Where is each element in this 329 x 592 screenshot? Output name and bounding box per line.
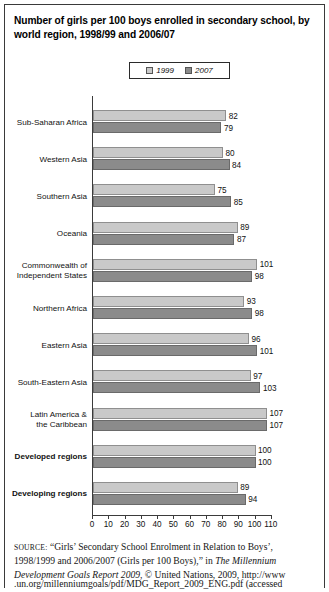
bar-group: Sub-Saharan Africa8279 — [0, 104, 329, 141]
category-label-line: Commonwealth of — [0, 261, 87, 271]
category-label-line: Northern Africa — [0, 304, 87, 314]
category-label-line: South-Eastern Asia — [0, 378, 87, 388]
bar-group: Developing regions8994 — [0, 476, 329, 513]
category-label-line: Developed regions — [0, 452, 87, 462]
bar-2007 — [93, 122, 221, 133]
bar-2007 — [93, 308, 252, 319]
bar-group: Commonwealth ofIndependent States10198 — [0, 253, 329, 290]
bar-2007 — [93, 271, 252, 282]
x-tick-label: 80 — [217, 520, 226, 529]
x-tick-label: 30 — [136, 520, 145, 529]
bar-1999 — [93, 370, 251, 381]
bar-value-label: 87 — [234, 235, 246, 244]
bar-value-label: 101 — [257, 260, 273, 269]
bar-value-label: 79 — [221, 123, 233, 132]
chart-figure: Number of girls per 100 boys enrolled in… — [0, 0, 329, 592]
x-tick-mark — [222, 515, 223, 519]
bar-value-label: 100 — [256, 458, 272, 467]
x-tick-label: 40 — [152, 520, 161, 529]
bar-1999 — [93, 445, 256, 456]
x-tick-mark — [92, 515, 93, 519]
bar-2007 — [93, 457, 256, 468]
bar-group: Latin America &the Caribbean107107 — [0, 402, 329, 439]
bar-2007 — [93, 234, 234, 245]
bar-1999 — [93, 482, 238, 493]
x-tick-mark — [206, 515, 207, 519]
category-label-line: Southern Asia — [0, 192, 87, 202]
bar-1999 — [93, 259, 257, 270]
category-label: Western Asia — [0, 155, 87, 165]
x-tick-label: 20 — [120, 520, 129, 529]
bar-value-label: 84 — [230, 160, 242, 169]
bar-2007 — [93, 494, 246, 505]
bar-value-label: 89 — [238, 483, 250, 492]
bar-groups: Sub-Saharan Africa8279Western Asia8084So… — [0, 104, 329, 513]
bar-group: Northern Africa9398 — [0, 290, 329, 327]
bar-value-label: 107 — [267, 409, 283, 418]
bar-2007 — [93, 345, 257, 356]
bar-value-label: 101 — [257, 346, 273, 355]
x-tick-label: 60 — [185, 520, 194, 529]
bar-group: South-Eastern Asia97103 — [0, 364, 329, 401]
x-tick-label: 70 — [201, 520, 210, 529]
bar-2007 — [93, 196, 231, 207]
bar-value-label: 80 — [223, 148, 235, 157]
bar-1999 — [93, 296, 244, 307]
bar-value-label: 82 — [226, 111, 238, 120]
x-tick-mark — [108, 515, 109, 519]
bar-2007 — [93, 382, 260, 393]
category-label-line: Eastern Asia — [0, 341, 87, 351]
x-tick-mark — [238, 515, 239, 519]
bar-1999 — [93, 333, 249, 344]
x-tick-mark — [125, 515, 126, 519]
category-label-line: Western Asia — [0, 155, 87, 165]
bar-group: Eastern Asia96101 — [0, 327, 329, 364]
x-tick-label: 100 — [248, 520, 262, 529]
bar-value-label: 93 — [244, 297, 256, 306]
source-label: SOURCE: — [14, 543, 47, 552]
x-tick-mark — [255, 515, 256, 519]
category-label-line: Sub-Saharan Africa — [0, 118, 87, 128]
category-label: South-Eastern Asia — [0, 378, 87, 388]
x-axis-ticks: 0102030405060708090100110 — [0, 515, 329, 539]
bar-value-label: 107 — [267, 421, 283, 430]
category-label-line: Latin America & — [0, 410, 87, 420]
x-tick-mark — [157, 515, 158, 519]
category-label: Sub-Saharan Africa — [0, 118, 87, 128]
source-note-cutoff-line: .un.org/millenniumgoals/pdf/MDG_Report_2… — [14, 579, 314, 592]
bar-group: Oceania8987 — [0, 216, 329, 253]
category-label-line: the Caribbean — [0, 420, 87, 430]
category-label: Developing regions — [0, 489, 87, 499]
x-tick-label: 110 — [264, 520, 277, 529]
bar-value-label: 85 — [231, 197, 243, 206]
bar-group: Southern Asia7585 — [0, 178, 329, 215]
bar-value-label: 97 — [251, 371, 263, 380]
x-tick-mark — [141, 515, 142, 519]
source-cutoff-text: .un.org/millenniumgoals/pdf/MDG_Report_2… — [14, 579, 314, 590]
x-tick-mark — [271, 515, 272, 519]
bar-value-label: 94 — [246, 495, 258, 504]
x-tick-label: 90 — [234, 520, 243, 529]
category-label: Developed regions — [0, 452, 87, 462]
bar-1999 — [93, 147, 223, 158]
category-label: Southern Asia — [0, 192, 87, 202]
bar-value-label: 89 — [238, 223, 250, 232]
bar-value-label: 75 — [215, 185, 227, 194]
bar-value-label: 103 — [260, 383, 276, 392]
x-tick-mark — [190, 515, 191, 519]
bar-value-label: 98 — [252, 309, 264, 318]
category-label: Northern Africa — [0, 304, 87, 314]
bar-2007 — [93, 420, 267, 431]
bar-value-label: 98 — [252, 272, 264, 281]
category-label: Oceania — [0, 229, 87, 239]
source-note: SOURCE: “Girls’ Secondary School Enrolme… — [14, 540, 314, 581]
x-tick-label: 50 — [169, 520, 178, 529]
category-label-line: Developing regions — [0, 489, 87, 499]
category-label: Eastern Asia — [0, 341, 87, 351]
x-tick-label: 10 — [104, 520, 113, 529]
bar-value-label: 96 — [249, 334, 261, 343]
category-label: Commonwealth ofIndependent States — [0, 261, 87, 281]
bar-1999 — [93, 110, 226, 121]
category-label: Latin America &the Caribbean — [0, 410, 87, 430]
x-tick-mark — [173, 515, 174, 519]
